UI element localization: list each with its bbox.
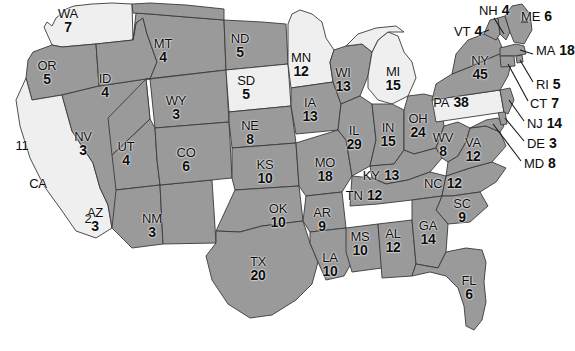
- state-label-11: 11: [7, 140, 37, 153]
- state-abbr: DE: [527, 136, 545, 151]
- state-label-KS: KS10: [245, 159, 285, 185]
- leader-DE: [505, 118, 524, 141]
- state-electoral-votes: 13: [290, 110, 330, 124]
- state-electoral-votes: 5: [553, 76, 561, 92]
- state-label-OK: OK10: [258, 203, 298, 229]
- state-label-MT: MT4: [143, 38, 183, 64]
- state-electoral-votes: 14: [408, 233, 448, 247]
- state-electoral-votes: 10: [258, 216, 298, 230]
- state-MA[interactable]: [500, 44, 526, 56]
- state-label-ND: ND5: [220, 33, 260, 59]
- state-abbr: MD: [524, 156, 544, 171]
- state-abbr: MA: [536, 43, 555, 58]
- state-electoral-votes: 3: [132, 226, 172, 240]
- state-electoral-votes: 3: [63, 144, 103, 158]
- state-electoral-votes: 12: [447, 175, 462, 191]
- state-electoral-votes: 5: [220, 46, 260, 60]
- state-label-TN: TN 12: [334, 187, 394, 203]
- state-electoral-votes: 12: [281, 65, 321, 79]
- state-label-NJ: NJ 14: [527, 115, 562, 131]
- state-label-ID: ID4: [85, 73, 125, 99]
- state-abbr: PA: [433, 95, 449, 110]
- state-label-MD: MD 8: [524, 155, 556, 171]
- leader-NJ: [509, 100, 524, 121]
- state-electoral-votes: 13: [323, 80, 363, 94]
- state-electoral-votes: 4: [106, 154, 146, 168]
- state-abbr: RI: [536, 77, 549, 92]
- state-electoral-votes: 4: [85, 86, 125, 100]
- state-electoral-votes: 4: [502, 2, 510, 18]
- state-electoral-votes: 4: [143, 51, 183, 65]
- state-label-NH: NH 4: [479, 2, 509, 18]
- state-electoral-votes: 6: [449, 288, 489, 302]
- state-electoral-votes: 3: [156, 108, 196, 122]
- state-label-MI: MI15: [373, 66, 413, 92]
- state-abbr: 11: [7, 140, 37, 153]
- state-abbr: 2: [73, 213, 103, 226]
- state-abbr: VT: [454, 24, 470, 39]
- state-electoral-votes: 7: [48, 21, 88, 35]
- state-label-RI: RI 5: [536, 76, 560, 92]
- state-RI[interactable]: [516, 55, 523, 63]
- state-electoral-votes: 13: [384, 167, 399, 183]
- state-abbr: ME: [521, 9, 540, 24]
- state-label-AR: AR9: [302, 207, 342, 233]
- state-electoral-votes: 38: [454, 94, 469, 110]
- state-label-MO: MO18: [305, 157, 345, 183]
- state-label-WY: WY3: [156, 95, 196, 121]
- state-electoral-votes: 6: [544, 8, 552, 24]
- state-label-TX: TX20: [238, 256, 278, 282]
- state-abbr: NH: [479, 3, 497, 18]
- state-abbr: CA: [23, 178, 53, 191]
- state-label-UT: UT4: [106, 141, 146, 167]
- state-electoral-votes: 18: [559, 42, 574, 58]
- state-label-NC: NC 12: [413, 175, 473, 191]
- state-label-NE: NE8: [230, 120, 270, 146]
- state-electoral-votes: 12: [453, 150, 493, 164]
- state-electoral-votes: 5: [226, 88, 266, 102]
- state-label-2: 2: [73, 213, 103, 226]
- state-abbr: NJ: [527, 116, 543, 131]
- state-abbr: NC: [424, 176, 442, 191]
- state-electoral-votes: 10: [310, 265, 350, 279]
- state-abbr: KY: [363, 168, 380, 183]
- state-electoral-votes: 5: [27, 73, 67, 87]
- state-electoral-votes: 8: [548, 155, 556, 171]
- state-label-ME: ME 6: [521, 8, 552, 24]
- state-label-NY: NY45: [460, 55, 500, 81]
- state-label-WI: WI13: [323, 67, 363, 93]
- state-electoral-votes: 9: [442, 211, 482, 225]
- state-label-VA: VA12: [453, 137, 493, 163]
- state-label-CA: CA: [23, 178, 53, 191]
- state-electoral-votes: 14: [547, 115, 562, 131]
- state-electoral-votes: 4: [474, 23, 482, 39]
- state-electoral-votes: 18: [305, 170, 345, 184]
- state-label-SC: SC9: [442, 198, 482, 224]
- leader-RI: [520, 60, 533, 82]
- state-label-OR: OR5: [27, 60, 67, 86]
- state-electoral-votes: 9: [302, 220, 342, 234]
- state-electoral-votes: 20: [238, 269, 278, 283]
- state-label-SD: SD5: [226, 75, 266, 101]
- state-electoral-votes: 10: [245, 172, 285, 186]
- state-label-WA: WA7: [48, 8, 88, 34]
- state-label-IA: IA13: [290, 97, 330, 123]
- state-electoral-votes: 3: [549, 135, 557, 151]
- state-label-FL: FL6: [449, 275, 489, 301]
- state-electoral-votes: 45: [460, 68, 500, 82]
- state-label-NM: NM3: [132, 213, 172, 239]
- state-electoral-votes: 8: [230, 133, 270, 147]
- state-electoral-votes: 12: [367, 187, 382, 203]
- state-abbr: TN: [346, 188, 363, 203]
- state-abbr: CT: [530, 96, 547, 111]
- state-label-PA: PA 38: [421, 94, 481, 110]
- state-label-CO: CO6: [166, 147, 206, 173]
- state-electoral-votes: 6: [166, 160, 206, 174]
- state-label-VT: VT 4: [454, 23, 482, 39]
- state-electoral-votes: 7: [551, 95, 559, 111]
- state-label-CT: CT 7: [530, 95, 559, 111]
- state-label-DE: DE 3: [527, 135, 557, 151]
- state-electoral-votes: 15: [373, 79, 413, 93]
- state-CT[interactable]: [500, 56, 515, 67]
